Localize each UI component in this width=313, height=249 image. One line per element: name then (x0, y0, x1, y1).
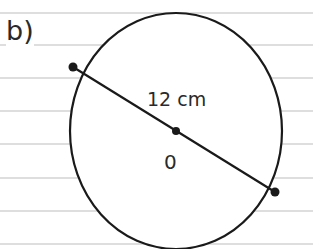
circle-diagram: b) 12 cm 0 (0, 0, 313, 249)
center-label: 0 (164, 150, 177, 174)
endpoint-dot (69, 63, 78, 72)
question-label: b) (6, 15, 34, 46)
diameter-label: 12 cm (147, 88, 206, 110)
center-dot (172, 127, 180, 135)
endpoint-dot (271, 188, 280, 197)
diagram-graphic (0, 0, 313, 249)
